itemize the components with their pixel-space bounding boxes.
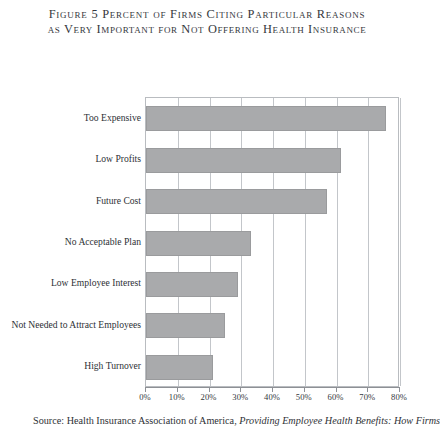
bar bbox=[146, 231, 251, 256]
bar bbox=[146, 189, 327, 214]
x-axis-tick-label: 10% bbox=[169, 392, 185, 402]
category-label: Not Needed to Attract Employees bbox=[0, 319, 141, 330]
bar bbox=[146, 106, 386, 131]
category-label: Low Profits bbox=[0, 153, 141, 164]
source-publication-title: Providing Employee Health Benefits: How … bbox=[239, 415, 440, 426]
category-axis-labels: Too ExpensiveLow ProfitsFuture CostNo Ac… bbox=[0, 97, 141, 387]
plot-area bbox=[145, 97, 399, 387]
x-axis-tick-label: 50% bbox=[296, 392, 312, 402]
category-label: High Turnover bbox=[0, 360, 141, 371]
figure-title-line-2: as Very Important for Not Offering Healt… bbox=[0, 22, 414, 37]
bar bbox=[146, 355, 213, 380]
figure-title-line-1: Figure 5 Percent of Firms Citing Particu… bbox=[0, 7, 414, 22]
category-label: Too Expensive bbox=[0, 112, 141, 123]
x-axis-tick-label: 70% bbox=[359, 392, 375, 402]
bar bbox=[146, 313, 225, 338]
x-axis-tick-label: 20% bbox=[201, 392, 217, 402]
bar bbox=[146, 148, 341, 173]
category-label: Low Employee Interest bbox=[0, 277, 141, 288]
x-axis-tick-label: 60% bbox=[328, 392, 344, 402]
source-prefix: Source: Health Insurance Association of … bbox=[33, 415, 239, 426]
x-axis-tick-label: 80% bbox=[391, 392, 407, 402]
x-axis-tick-label: 30% bbox=[232, 392, 248, 402]
figure-title: Figure 5 Percent of Firms Citing Particu… bbox=[0, 7, 414, 37]
category-label: Future Cost bbox=[0, 195, 141, 206]
source-note: Source: Health Insurance Association of … bbox=[33, 414, 405, 427]
bar bbox=[146, 272, 238, 297]
x-axis-tick-labels: 0%10%20%30%40%50%60%70%80% bbox=[0, 392, 414, 406]
x-axis-tick-label: 40% bbox=[264, 392, 280, 402]
gridline bbox=[400, 98, 401, 386]
x-axis-tick-label: 0% bbox=[139, 392, 150, 402]
category-label: No Acceptable Plan bbox=[0, 236, 141, 247]
bars-layer bbox=[146, 98, 398, 386]
